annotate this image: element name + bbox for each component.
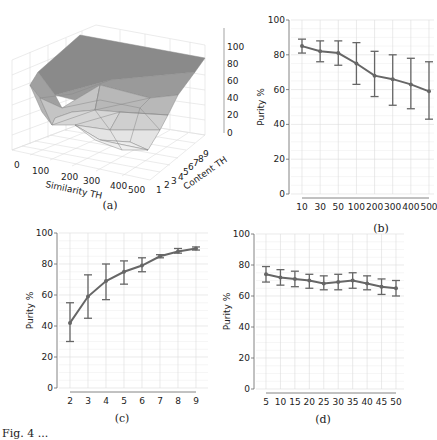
x-tick-label: 40 (361, 397, 373, 407)
data-series (266, 274, 396, 288)
data-point (322, 282, 326, 286)
data-point (365, 282, 369, 286)
y-tick-label: 20 (239, 353, 251, 363)
svg-text:60: 60 (227, 76, 239, 86)
svg-text:9: 9 (203, 149, 209, 159)
y-tick-label: 40 (239, 322, 251, 332)
x-tick-label: 500 (420, 202, 437, 212)
x-tick-label: 30 (314, 202, 326, 212)
y-tick-label: 80 (274, 50, 286, 60)
data-point (391, 77, 395, 81)
x-tick-label: 5 (121, 396, 127, 406)
svg-text:80: 80 (227, 59, 239, 69)
data-point (427, 89, 431, 93)
x-tick-label: 300 (384, 202, 401, 212)
y-tick-label: 20 (274, 154, 286, 164)
x-tick-label: 7 (157, 396, 163, 406)
y-tick-label: 0 (47, 383, 53, 393)
x-tick-label: 10 (275, 397, 287, 407)
svg-text:2: 2 (164, 180, 170, 190)
data-point (300, 44, 304, 48)
svg-text:300: 300 (83, 176, 100, 186)
data-point (307, 279, 311, 283)
x-tick-label: 10 (296, 202, 308, 212)
x-tick-label: 4 (103, 396, 109, 406)
y-tick-label: 40 (274, 119, 286, 129)
x-tick-label: 3 (85, 396, 91, 406)
data-point (394, 286, 398, 290)
panel-a-z-ticks: 0 20 40 60 80 100 (224, 28, 244, 138)
svg-text:100: 100 (227, 42, 244, 52)
y-axis-label: Purity % (256, 88, 266, 126)
x-tick-label: 25 (318, 397, 329, 407)
y-tick-label: 100 (233, 229, 250, 239)
panel-b-line-chart: 020406080100103050100200300400500Purity … (256, 15, 437, 235)
x-tick-label: 35 (347, 397, 358, 407)
svg-text:20: 20 (227, 110, 239, 120)
data-point (293, 277, 297, 281)
data-point (68, 321, 72, 325)
svg-text:400: 400 (110, 181, 127, 191)
panel-c-line-chart: 02040608010023456789Purity %(c) (25, 228, 208, 425)
svg-text:1: 1 (156, 185, 162, 195)
svg-text:0: 0 (227, 128, 233, 138)
data-point (194, 247, 198, 251)
y-tick-label: 80 (239, 260, 251, 270)
x-tick-label: 8 (175, 396, 181, 406)
panel-caption: (d) (315, 413, 331, 426)
y-tick-label: 0 (244, 384, 250, 394)
data-point (176, 250, 180, 254)
y-tick-label: 40 (42, 321, 54, 331)
x-tick-label: 9 (193, 396, 199, 406)
data-point (122, 270, 126, 274)
y-tick-label: 60 (42, 290, 54, 300)
data-point (318, 49, 322, 53)
figure-canvas: 0 100 200 300 400 500 Similarity TH 1 2 … (0, 0, 437, 440)
x-tick-label: 400 (402, 202, 419, 212)
y-tick-label: 20 (42, 352, 54, 362)
svg-text:500: 500 (128, 185, 145, 195)
y-tick-label: 100 (36, 228, 53, 238)
y-tick-label: 100 (268, 15, 285, 25)
data-point (140, 264, 144, 268)
data-point (158, 254, 162, 258)
x-tick-label: 20 (304, 397, 316, 407)
y-tick-label: 0 (279, 189, 285, 199)
panel-d-line-chart: 0204060801005101520253035404550Purity %(… (222, 229, 404, 426)
x-tick-label: 100 (348, 202, 365, 212)
panel-a-caption: (a) (102, 199, 117, 212)
x-tick-label: 50 (333, 202, 345, 212)
y-tick-label: 80 (42, 259, 54, 269)
svg-text:40: 40 (227, 93, 239, 103)
x-tick-label: 200 (366, 202, 383, 212)
data-point (86, 295, 90, 299)
data-point (373, 74, 377, 78)
data-series (70, 249, 196, 323)
data-point (104, 279, 108, 283)
x-tick-label: 30 (332, 397, 344, 407)
data-point (264, 272, 268, 276)
data-point (278, 275, 282, 279)
svg-text:200: 200 (61, 172, 78, 182)
svg-text:100: 100 (32, 166, 49, 176)
y-tick-label: 60 (274, 85, 286, 95)
panel-a-surface-chart: 0 100 200 300 400 500 Similarity TH 1 2 … (12, 25, 244, 212)
x-tick-label: 45 (376, 397, 387, 407)
data-point (409, 82, 413, 86)
x-tick-label: 5 (263, 397, 269, 407)
data-point (354, 62, 358, 66)
panel-caption: (c) (115, 412, 130, 425)
svg-text:0: 0 (14, 160, 20, 170)
y-tick-label: 60 (239, 291, 251, 301)
data-point (351, 279, 355, 283)
data-point (380, 285, 384, 289)
figure-caption-fragment: Fig. 4 ... (2, 427, 48, 440)
x-tick-label: 50 (390, 397, 402, 407)
panel-caption: (b) (373, 222, 389, 235)
x-tick-label: 6 (139, 396, 145, 406)
x-tick-label: 15 (289, 397, 300, 407)
data-point (336, 280, 340, 284)
svg-text:3: 3 (171, 176, 177, 186)
y-axis-label: Purity % (222, 292, 232, 330)
data-point (336, 51, 340, 55)
